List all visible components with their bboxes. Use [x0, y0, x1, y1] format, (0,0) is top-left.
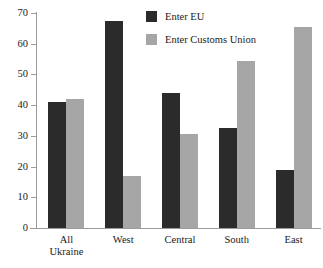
bar-enter-eu: [105, 21, 123, 228]
bar-enter-eu: [276, 170, 294, 228]
y-axis-tick-label: 70: [4, 8, 28, 19]
bar-group: [105, 13, 141, 228]
legend-item-enter-eu: Enter EU: [146, 11, 256, 22]
bar-group: [276, 13, 312, 228]
x-axis-label-line: Ukraine: [29, 246, 103, 258]
y-axis-tick-label: 10: [4, 192, 28, 203]
chart-legend: Enter EU Enter Customs Union: [146, 11, 256, 57]
bar-enter-customs-union: [180, 134, 198, 228]
y-axis-tick-label: 0: [4, 223, 28, 234]
bar-enter-customs-union: [66, 99, 84, 228]
legend-item-enter-customs-union: Enter Customs Union: [146, 34, 256, 45]
y-axis-tick-label: 50: [4, 69, 28, 80]
legend-swatch-customs-union-icon: [146, 34, 157, 45]
bar-enter-eu: [219, 128, 237, 228]
y-axis-tick-label: 30: [4, 131, 28, 142]
bar-chart: 010203040506070 AllUkraineWestCentralSou…: [0, 0, 323, 268]
legend-swatch-eu-icon: [146, 11, 157, 22]
bar-enter-customs-union: [294, 27, 312, 228]
bar-enter-eu: [162, 93, 180, 228]
y-axis-tick-label: 20: [4, 161, 28, 172]
bar-enter-customs-union: [237, 61, 255, 228]
bar-enter-eu: [48, 102, 66, 228]
x-axis-line: [30, 228, 321, 229]
legend-label-enter-eu: Enter EU: [165, 11, 204, 22]
bar-group: [48, 13, 84, 228]
legend-label-enter-customs-union: Enter Customs Union: [165, 34, 256, 45]
y-axis-tick-label: 60: [4, 38, 28, 49]
x-axis-label-line: East: [257, 234, 323, 246]
bar-enter-customs-union: [123, 176, 141, 228]
y-axis-tick-label: 40: [4, 100, 28, 111]
x-axis-label: East: [257, 234, 323, 246]
